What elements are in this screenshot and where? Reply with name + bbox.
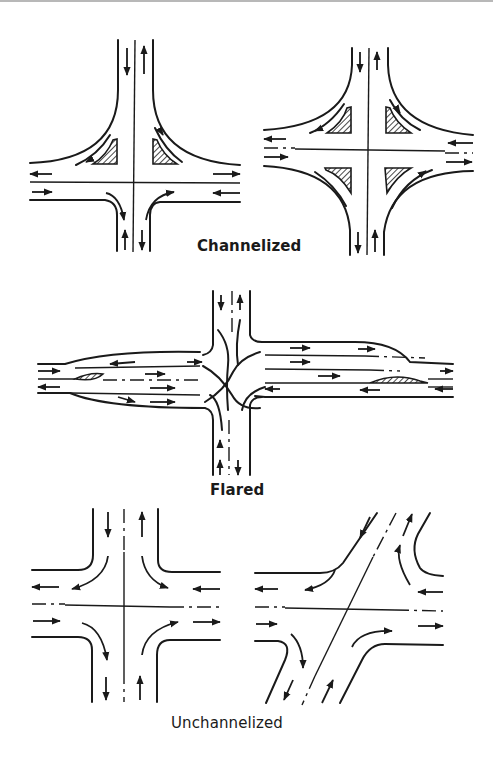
- unchannelized-label: Unchannelized: [171, 714, 283, 732]
- flared-label: Flared: [210, 481, 264, 499]
- unchannelized-intersection-2: [255, 513, 443, 705]
- traffic-island: [370, 377, 428, 383]
- flared-intersection: [38, 291, 453, 475]
- intersection-diagram: [0, 0, 493, 763]
- traffic-island: [75, 374, 103, 380]
- traffic-island: [325, 168, 351, 193]
- channelized-intersection-1: [30, 40, 240, 252]
- channelized-intersection-2: [264, 48, 473, 255]
- channelized-label: Channelized: [197, 237, 301, 255]
- unchannelized-intersection-1: [32, 509, 220, 702]
